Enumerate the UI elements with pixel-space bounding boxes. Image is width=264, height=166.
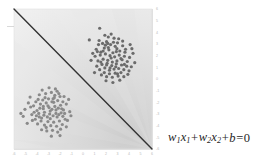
scatter-point	[62, 95, 65, 98]
scatter-point	[47, 86, 50, 89]
scatter-point	[111, 51, 114, 54]
scatter-point	[108, 66, 111, 69]
x-tick-label: -3	[47, 152, 50, 156]
scatter-point	[45, 101, 48, 104]
scatter-point	[26, 122, 29, 125]
scatter-point	[50, 91, 53, 94]
y-tick-label: 1	[156, 66, 158, 70]
x-tick-label: -1	[70, 152, 73, 156]
x-tick-label: -5	[24, 152, 27, 156]
scatter-point	[39, 102, 42, 105]
scatter-point	[106, 59, 109, 62]
y-tick-label: 5	[156, 19, 158, 23]
scatter-point	[115, 59, 118, 62]
scatter-point	[49, 124, 52, 127]
scatter-point	[46, 115, 49, 118]
scatter-point	[56, 115, 59, 118]
scatter-point	[50, 135, 53, 138]
scatter-point	[27, 101, 30, 104]
scatter-point	[53, 105, 56, 108]
scatter-point	[101, 42, 104, 45]
scatter-point	[50, 108, 53, 111]
scatter-point	[111, 60, 114, 63]
scatter-point	[34, 118, 37, 121]
scatter-point	[37, 98, 40, 101]
x-axis-ticks: -6-5-4-3-2-10123456	[12, 152, 153, 156]
scatter-point	[61, 115, 64, 118]
scatter-point	[116, 72, 119, 75]
scatter-point	[95, 65, 98, 68]
scatter-point	[65, 125, 68, 128]
scatter-point	[51, 129, 54, 132]
scatter-point	[59, 104, 62, 107]
scatter-point	[93, 71, 96, 74]
y-tick-label: 6	[156, 7, 158, 11]
x-tick-label: 2	[105, 152, 107, 156]
x-tick-label: 6	[151, 152, 153, 156]
scatter-point	[47, 97, 50, 100]
scatter-point	[40, 128, 43, 131]
scatter-point	[115, 47, 118, 50]
scatter-point	[42, 114, 45, 117]
scatter-point	[111, 76, 114, 79]
scatter-point	[29, 105, 32, 108]
scatter-point	[38, 107, 41, 110]
scatter-point	[36, 122, 39, 125]
scatter-point	[30, 113, 33, 116]
scatter-point	[52, 121, 55, 124]
scatter-point	[52, 114, 55, 117]
scatter-point	[29, 95, 32, 98]
x-tick-label: 4	[128, 152, 130, 156]
scatter-point	[41, 88, 44, 91]
scatter-point	[33, 111, 36, 114]
scatter-point	[103, 71, 106, 74]
scatter-point	[118, 49, 121, 52]
scatter-point	[97, 43, 100, 46]
scatter-point	[120, 63, 123, 66]
scatter-point	[117, 67, 120, 70]
scatter-point	[54, 112, 57, 115]
scatter-point	[107, 35, 110, 38]
scatter-point	[119, 57, 122, 60]
scatter-point	[126, 73, 129, 76]
x-tick-label: 0	[82, 152, 84, 156]
scatter-point	[43, 96, 46, 99]
scatter-point	[45, 126, 48, 129]
scatter-point	[123, 63, 126, 66]
scatter-point	[34, 100, 37, 103]
scatter-point	[114, 65, 117, 68]
scatter-point	[46, 120, 49, 123]
scatter-point	[32, 104, 35, 107]
scatter-point	[102, 58, 105, 61]
scatter-point	[124, 48, 127, 51]
scatter-point	[23, 108, 26, 111]
scatter-point	[38, 115, 41, 118]
scatter-point	[131, 52, 134, 55]
x-tick-label: -2	[58, 152, 61, 156]
scatter-point	[58, 95, 61, 98]
scatter-point	[119, 71, 122, 74]
scatter-point	[127, 69, 130, 72]
scatter-point	[67, 98, 70, 101]
scatter-point	[22, 115, 25, 118]
scatter-point	[48, 112, 51, 115]
scatter-point	[93, 55, 96, 58]
scatter-point	[68, 110, 71, 113]
equation-zero: 0	[244, 131, 250, 146]
scatter-point	[37, 112, 40, 115]
scatter-point	[111, 81, 114, 84]
scatter-point	[129, 43, 132, 46]
scatter-point	[96, 59, 99, 62]
scatter-point	[121, 44, 124, 47]
scatter-point	[128, 56, 131, 59]
x-tick-label: 1	[94, 152, 96, 156]
scatter-point	[54, 87, 57, 90]
scatter-point	[39, 119, 42, 122]
scatter-point	[61, 100, 64, 103]
scatter-point	[118, 79, 121, 82]
x-tick-label: 3	[117, 152, 119, 156]
scatter-point	[91, 52, 94, 55]
scatter-point	[19, 112, 22, 115]
scatter-point	[126, 60, 129, 63]
scatter-point	[60, 107, 63, 110]
